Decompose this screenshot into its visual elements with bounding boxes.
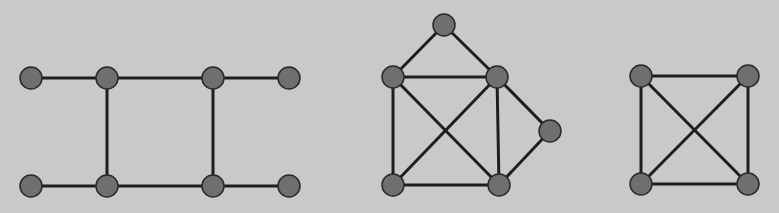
node-t (433, 14, 455, 36)
node-e (20, 175, 42, 197)
node-b (96, 67, 118, 89)
node-f (96, 175, 118, 197)
node-q (737, 65, 759, 87)
graph-ladder (20, 67, 300, 197)
node-g (202, 175, 224, 197)
node-d (278, 67, 300, 89)
graph-diagrams (0, 0, 779, 213)
node-br (488, 174, 510, 196)
graph-house (382, 14, 561, 196)
edge-r-br (497, 77, 499, 185)
graph-k4 (630, 65, 759, 195)
diagram-canvas (0, 0, 779, 213)
node-u (630, 173, 652, 195)
node-bl (382, 174, 404, 196)
node-c (202, 67, 224, 89)
node-s (539, 120, 561, 142)
node-v (737, 173, 759, 195)
node-l (382, 66, 404, 88)
node-a (20, 67, 42, 89)
node-p (630, 65, 652, 87)
node-r (486, 66, 508, 88)
node-h (278, 175, 300, 197)
